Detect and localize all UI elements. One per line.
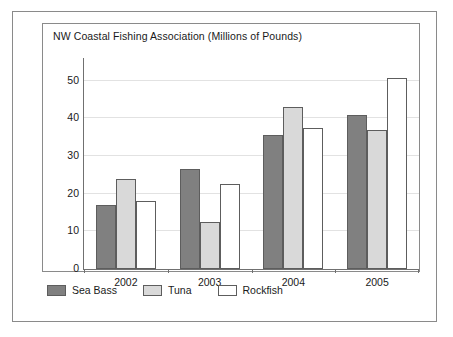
bar-group-2005: 2005: [335, 58, 419, 269]
x-axis-tick: [418, 269, 419, 273]
bar-tuna-2003: [200, 222, 220, 269]
y-axis-tick-label: 10: [67, 224, 79, 236]
chart-title: NW Coastal Fishing Association (Millions…: [53, 30, 302, 42]
legend-item-tuna[interactable]: Tuna: [143, 284, 192, 296]
plot-frame: NW Coastal Fishing Association (Millions…: [42, 23, 420, 272]
legend-swatch-sea-bass: [47, 285, 66, 296]
x-axis-tick: [84, 269, 85, 273]
y-axis-tick-label: 20: [67, 187, 79, 199]
x-axis-tick-label-2004: 2004: [282, 276, 305, 288]
bar-sea-bass-2005: [347, 115, 367, 269]
legend-item-rockfish[interactable]: Rockfish: [218, 284, 283, 296]
bar-tuna-2002: [116, 179, 136, 269]
bar-sea-bass-2004: [263, 135, 283, 269]
x-axis-tick: [252, 269, 253, 273]
chart-card: NW Coastal Fishing Association (Millions…: [12, 11, 437, 322]
plot-area: 010203040502002200320042005: [83, 58, 419, 270]
legend-label-rockfish: Rockfish: [243, 284, 283, 296]
y-axis-tick-label: 40: [67, 111, 79, 123]
bar-group-2003: 2003: [168, 58, 252, 269]
bar-rockfish-2003: [220, 184, 240, 269]
bar-rockfish-2002: [136, 201, 156, 269]
bar-tuna-2004: [283, 107, 303, 269]
bar-rockfish-2005: [387, 78, 407, 269]
chart-legend: Sea BassTunaRockfish: [47, 284, 283, 296]
bar-rockfish-2004: [303, 128, 323, 269]
legend-label-sea-bass: Sea Bass: [72, 284, 117, 296]
legend-label-tuna: Tuna: [168, 284, 192, 296]
x-axis-tick-label-2005: 2005: [365, 276, 388, 288]
bar-sea-bass-2003: [180, 169, 200, 269]
bar-group-2004: 2004: [252, 58, 336, 269]
y-axis-tick-label: 50: [67, 74, 79, 86]
bar-tuna-2005: [367, 130, 387, 269]
legend-swatch-tuna: [143, 285, 162, 296]
bar-group-2002: 2002: [84, 58, 168, 269]
legend-item-sea-bass[interactable]: Sea Bass: [47, 284, 117, 296]
y-axis-tick-label: 0: [73, 262, 79, 274]
x-axis-tick: [168, 269, 169, 273]
bar-sea-bass-2002: [96, 205, 116, 269]
legend-swatch-rockfish: [218, 285, 237, 296]
x-axis-tick: [335, 269, 336, 273]
y-axis-tick-label: 30: [67, 149, 79, 161]
